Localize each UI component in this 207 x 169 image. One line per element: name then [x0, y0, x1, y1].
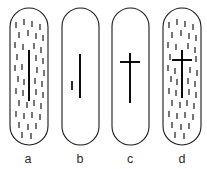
figure-container: abcd	[0, 0, 207, 169]
panel-label-c: c	[127, 152, 133, 166]
panel-c: c	[112, 8, 149, 166]
panel-label-b: b	[77, 152, 84, 166]
capsule-diagram: abcd	[0, 0, 207, 169]
panel-a: a	[10, 8, 48, 166]
panel-b: b	[62, 8, 99, 166]
panel-label-d: d	[179, 152, 186, 166]
panel-label-a: a	[25, 152, 32, 166]
panel-d: d	[163, 8, 201, 166]
